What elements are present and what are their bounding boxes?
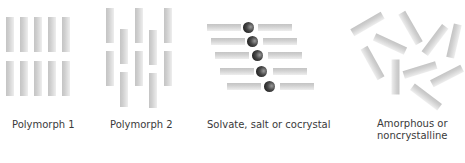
molecule-rod — [34, 17, 42, 52]
molecule-rod — [215, 52, 249, 59]
molecule-rod — [6, 61, 14, 96]
molecule-rod — [135, 8, 143, 43]
molecule-rod — [135, 51, 143, 86]
molecule-rod — [120, 72, 128, 107]
molecule-rod — [20, 61, 28, 96]
molecule-rod — [422, 24, 449, 56]
molecule-rod — [263, 38, 297, 45]
molecule-rod — [227, 83, 261, 90]
molecule-rod — [361, 46, 385, 80]
molecule-rod — [62, 61, 70, 96]
molecule-rod — [164, 8, 172, 43]
molecule-rod — [34, 61, 42, 96]
solvate-label: Solvate, salt or cocrystal — [207, 119, 331, 132]
molecule-rod — [48, 61, 56, 96]
molecule-rod — [106, 8, 114, 43]
ion-sphere-icon — [256, 66, 267, 77]
molecule-rod — [350, 12, 384, 36]
molecule-rod — [120, 29, 128, 64]
ion-sphere-icon — [252, 50, 263, 61]
molecule-rod — [207, 24, 241, 31]
molecule-rod — [398, 11, 422, 45]
molecule-rod — [48, 17, 56, 52]
molecule-rod — [164, 51, 172, 86]
molecule-rod — [220, 68, 254, 75]
molecule-rod — [106, 51, 114, 86]
molecule-rod — [273, 68, 307, 75]
molecule-rod — [410, 84, 442, 111]
ion-sphere-icon — [264, 81, 275, 92]
molecule-rod — [258, 24, 292, 31]
ion-sphere-icon — [247, 36, 258, 47]
molecule-rod — [392, 60, 400, 95]
polymorph-2-label: Polymorph 2 — [110, 119, 173, 132]
molecule-rod — [211, 38, 245, 45]
solid-forms-diagram: Polymorph 1 Polymorph 2 Solvate, salt or… — [0, 0, 465, 163]
molecule-rod — [373, 33, 407, 55]
molecule-rod — [446, 24, 461, 59]
amorphous-label-line1: Amorphous or — [377, 118, 448, 131]
ion-sphere-icon — [243, 22, 254, 33]
molecule-rod — [403, 61, 438, 79]
molecule-rod — [149, 30, 157, 65]
molecule-rod — [149, 73, 157, 108]
amorphous-label-line2: noncrystalline — [377, 130, 447, 143]
molecule-rod — [280, 83, 314, 90]
molecule-rod — [62, 17, 70, 52]
polymorph-1-label: Polymorph 1 — [12, 119, 75, 132]
molecule-rod — [6, 17, 14, 52]
molecule-rod — [20, 17, 28, 52]
molecule-rod — [268, 52, 302, 59]
